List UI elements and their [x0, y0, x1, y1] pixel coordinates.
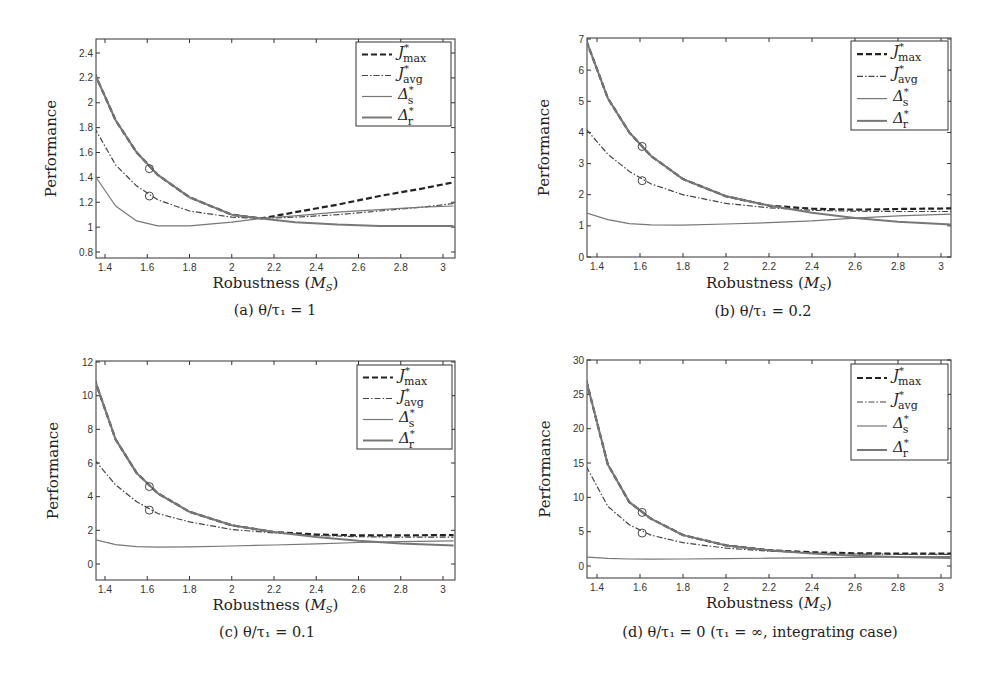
chart-panel-d: 1.41.61.822.22.42.62.83051015202530J*max… — [536, 355, 952, 641]
x-axis-label: Robustness (MS) — [213, 274, 339, 293]
x-tick-label: 2.4 — [805, 261, 819, 272]
x-axis-label: Robustness (MS) — [706, 594, 832, 613]
chart-panel-a: 1.41.61.822.22.42.62.830.811.21.41.61.82… — [42, 39, 455, 318]
legend: J*maxJ*avgΔ*sΔ*r — [851, 364, 948, 460]
x-tick-label: 1.6 — [633, 261, 647, 272]
figure-canvas: 1.41.61.822.22.42.62.830.811.21.41.61.82… — [0, 0, 997, 682]
x-tick-label: 1.6 — [140, 584, 154, 595]
x-tick-label: 3 — [938, 261, 944, 272]
x-tick-label: 3 — [440, 584, 446, 595]
y-tick-label: 5 — [578, 96, 584, 107]
x-tick-label: 3 — [440, 262, 446, 273]
x-tick-label: 2 — [723, 261, 729, 272]
operating-point-marker — [638, 177, 646, 185]
x-tick-label: 1.4 — [98, 584, 112, 595]
y-tick-label: 1 — [87, 222, 93, 233]
legend: J*maxJ*avgΔ*sΔ*r — [851, 41, 948, 131]
x-tick-label: 2.8 — [891, 582, 905, 593]
chart-panel-c: 1.41.61.822.22.42.62.83024681012J*maxJ*a… — [44, 357, 455, 641]
y-tick-label: 0.8 — [79, 247, 93, 258]
x-tick-label: 2.8 — [394, 584, 408, 595]
x-tick-label: 2 — [229, 584, 235, 595]
y-axis-label: Performance — [44, 422, 62, 519]
x-tick-label: 2.2 — [267, 584, 281, 595]
y-tick-label: 8 — [87, 424, 93, 435]
y-tick-label: 6 — [578, 65, 584, 76]
y-tick-label: 20 — [573, 423, 585, 434]
y-tick-label: 5 — [578, 526, 584, 537]
x-tick-label: 1.4 — [98, 262, 112, 273]
y-axis-label: Performance — [536, 420, 554, 517]
y-tick-label: 12 — [82, 357, 94, 368]
x-tick-label: 2.8 — [891, 261, 905, 272]
y-tick-label: 1 — [578, 220, 584, 231]
legend: J*maxJ*avgΔ*sΔ*r — [356, 42, 451, 128]
x-tick-label: 1.6 — [633, 582, 647, 593]
x-tick-label: 1.8 — [676, 261, 690, 272]
y-tick-label: 2 — [87, 97, 93, 108]
y-tick-label: 1.6 — [79, 147, 93, 158]
y-tick-label: 30 — [573, 355, 585, 366]
panel-caption: (a) θ/τ₁ = 1 — [234, 302, 317, 318]
y-tick-label: 1.8 — [79, 122, 93, 133]
y-tick-label: 0 — [578, 561, 584, 572]
y-tick-label: 1.2 — [79, 197, 93, 208]
y-tick-label: 0 — [578, 252, 584, 263]
y-tick-label: 2.2 — [79, 72, 93, 83]
y-tick-label: 0 — [87, 559, 93, 570]
series-line — [94, 460, 453, 537]
y-tick-label: 10 — [573, 492, 585, 503]
x-tick-label: 2.2 — [762, 582, 776, 593]
x-tick-label: 2.8 — [394, 262, 408, 273]
x-tick-label: 2.2 — [267, 262, 281, 273]
y-tick-label: 4 — [87, 491, 93, 502]
x-axis-label: Robustness (MS) — [706, 274, 832, 293]
y-tick-label: 1.4 — [79, 172, 93, 183]
series-line — [94, 175, 453, 226]
y-tick-label: 6 — [87, 458, 93, 469]
y-tick-label: 25 — [573, 389, 585, 400]
x-tick-label: 2.4 — [309, 584, 323, 595]
x-tick-label: 3 — [938, 582, 944, 593]
y-tick-label: 2 — [87, 525, 93, 536]
panel-caption: (b) θ/τ₁ = 0.2 — [714, 303, 811, 319]
x-tick-label: 2.6 — [848, 261, 862, 272]
series-line — [586, 213, 952, 225]
y-axis-label: Performance — [42, 100, 60, 197]
x-tick-label: 1.8 — [183, 262, 197, 273]
x-tick-label: 1.4 — [590, 582, 604, 593]
operating-point-marker — [145, 192, 153, 200]
y-tick-label: 2.4 — [79, 48, 93, 59]
x-tick-label: 2 — [723, 582, 729, 593]
y-tick-label: 2 — [578, 189, 584, 200]
y-axis-label: Performance — [535, 99, 553, 196]
chart-panel-b: 1.41.61.822.22.42.62.8301234567J*maxJ*av… — [535, 34, 952, 320]
x-tick-label: 1.8 — [676, 582, 690, 593]
legend: J*maxJ*avgΔ*sΔ*r — [357, 365, 452, 451]
x-tick-label: 2.4 — [805, 582, 819, 593]
y-tick-label: 10 — [82, 390, 94, 401]
operating-point-marker — [638, 529, 646, 537]
y-tick-label: 4 — [578, 127, 584, 138]
x-tick-label: 2.2 — [762, 261, 776, 272]
x-tick-label: 1.4 — [590, 261, 604, 272]
y-tick-label: 7 — [578, 34, 584, 45]
series-line — [586, 129, 952, 211]
panel-caption: (d) θ/τ₁ = 0 (τ₁ = ∞, integrating case) — [622, 624, 897, 640]
x-axis-label: Robustness (MS) — [213, 596, 339, 615]
y-tick-label: 3 — [578, 158, 584, 169]
x-tick-label: 2.6 — [352, 584, 366, 595]
x-tick-label: 1.8 — [183, 584, 197, 595]
x-tick-label: 2.6 — [352, 262, 366, 273]
y-tick-label: 15 — [573, 458, 585, 469]
x-tick-label: 2.4 — [309, 262, 323, 273]
panel-caption: (c) θ/τ₁ = 0.1 — [219, 624, 315, 640]
x-tick-label: 2.6 — [848, 582, 862, 593]
x-tick-label: 1.6 — [140, 262, 154, 273]
x-tick-label: 2 — [229, 262, 235, 273]
